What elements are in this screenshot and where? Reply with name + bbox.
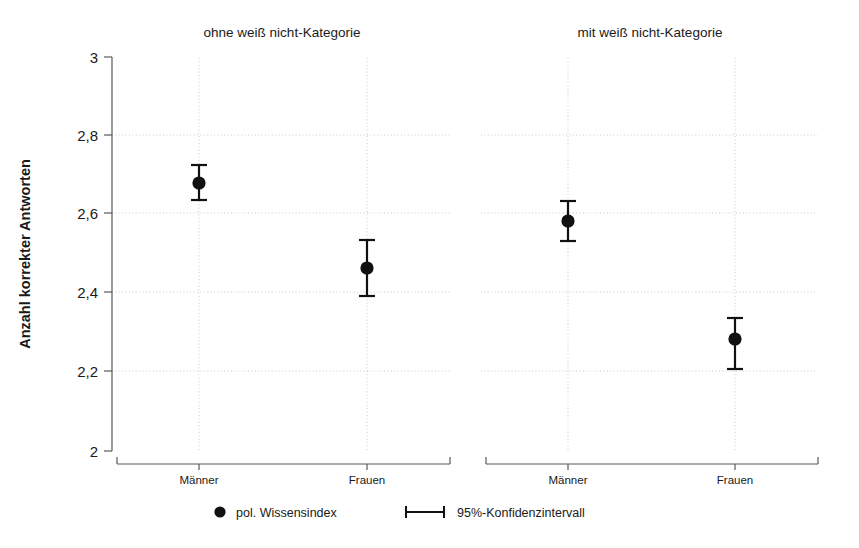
chart-legend: pol. Wissensindex 95%-Konfidenzintervall bbox=[214, 506, 584, 520]
legend-marker-point-icon bbox=[214, 506, 225, 517]
panel-title-left: ohne weiß nicht-Kategorie bbox=[204, 25, 361, 40]
chart-figure: ohne weiß nicht-Kategorie mit weiß nicht… bbox=[0, 0, 859, 548]
x-axis-left bbox=[117, 457, 450, 470]
y-tick-label-2: 2 bbox=[90, 443, 98, 460]
gridlines-horizontal-right bbox=[481, 135, 818, 371]
data-point-left-frauen bbox=[359, 240, 375, 296]
y-tick-label-3: 3 bbox=[90, 49, 98, 66]
y-axis bbox=[104, 57, 112, 451]
y-axis-title: Anzahl korrekter Antworten bbox=[17, 159, 33, 349]
y-tick-label-2-4: 2,4 bbox=[77, 284, 98, 301]
legend-label-errorbar: 95%-Konfidenzintervall bbox=[457, 506, 585, 520]
data-point-left-maenner bbox=[191, 165, 207, 200]
data-point-right-frauen bbox=[727, 318, 743, 369]
y-tick-label-2-2: 2,2 bbox=[77, 363, 98, 380]
error-bar-chart: ohne weiß nicht-Kategorie mit weiß nicht… bbox=[0, 0, 859, 548]
y-tick-label-2-8: 2,8 bbox=[77, 127, 98, 144]
y-tick-label-2-6: 2,6 bbox=[77, 205, 98, 222]
panel-title-right: mit weiß nicht-Kategorie bbox=[578, 25, 723, 40]
legend-label-point: pol. Wissensindex bbox=[236, 506, 337, 520]
gridlines-horizontal-left bbox=[112, 135, 450, 371]
data-point-right-maenner bbox=[560, 201, 576, 241]
x-tick-label-right-frauen: Frauen bbox=[717, 474, 753, 486]
x-axis-right bbox=[486, 457, 818, 470]
x-tick-label-right-maenner: Männer bbox=[549, 474, 588, 486]
legend-marker-errorbar-icon bbox=[406, 506, 444, 518]
x-tick-label-left-frauen: Frauen bbox=[349, 474, 385, 486]
x-tick-label-left-maenner: Männer bbox=[180, 474, 219, 486]
gridlines-vertical bbox=[199, 58, 735, 452]
